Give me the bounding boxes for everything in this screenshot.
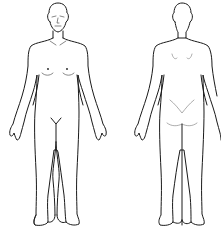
- front-face: [52, 16, 64, 26]
- front-inner-arms: [33, 75, 83, 105]
- front-feet: [34, 215, 66, 225]
- body-diagram: [0, 0, 221, 235]
- front-chest: [42, 73, 74, 75]
- front-groin: [51, 118, 61, 142]
- front-figure[interactable]: [10, 3, 107, 225]
- front-nipple-left: [47, 68, 49, 70]
- back-inner-arms: [158, 75, 207, 105]
- front-nipple-right: [66, 68, 68, 70]
- front-head: [48, 3, 69, 32]
- back-head: [173, 3, 193, 38]
- back-figure[interactable]: [135, 3, 221, 225]
- back-shoulder-blades: [172, 54, 192, 59]
- back-sacrum: [170, 100, 194, 113]
- back-body-outline: [135, 38, 221, 225]
